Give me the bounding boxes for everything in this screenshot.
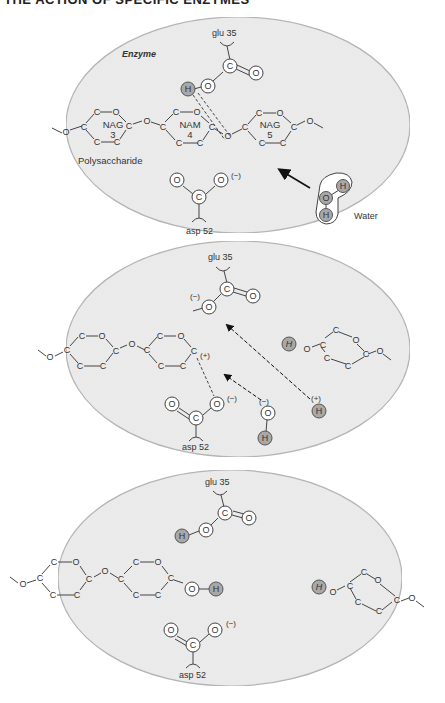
svg-text:O: O xyxy=(173,175,180,185)
svg-text:O: O xyxy=(177,331,184,341)
svg-text:C: C xyxy=(259,138,266,148)
svg-text:C: C xyxy=(133,590,140,600)
svg-text:O: O xyxy=(188,584,195,594)
svg-text:C: C xyxy=(64,345,71,355)
svg-text:C: C xyxy=(157,331,164,341)
sugar-number: 4 xyxy=(187,129,192,140)
svg-text:O: O xyxy=(252,68,259,78)
carbon-atom: C xyxy=(223,59,237,73)
svg-text:O: O xyxy=(376,346,383,356)
svg-text:C: C xyxy=(320,340,327,350)
sugar-number: 3 xyxy=(110,129,115,140)
enzyme-label: Enzyme xyxy=(122,49,156,59)
svg-text:O: O xyxy=(205,302,212,312)
asp52-label: asp 52 xyxy=(179,670,206,680)
charge-label: (−) xyxy=(190,292,200,301)
svg-text:C: C xyxy=(94,137,101,147)
svg-text:H: H xyxy=(316,582,323,592)
svg-text:C: C xyxy=(94,107,101,117)
svg-text:H: H xyxy=(179,531,186,541)
svg-text:C: C xyxy=(37,573,44,583)
svg-text:O: O xyxy=(249,291,256,301)
svg-text:O: O xyxy=(62,127,69,137)
svg-text:O: O xyxy=(408,593,415,603)
svg-text:C: C xyxy=(81,122,88,132)
svg-text:O: O xyxy=(245,513,252,523)
panel-3: glu 35 C O O H xyxy=(10,470,424,686)
svg-text:O: O xyxy=(211,625,218,635)
water-label: Water xyxy=(354,211,378,221)
svg-text:C: C xyxy=(155,590,162,600)
svg-text:O: O xyxy=(329,587,336,597)
svg-text:C: C xyxy=(176,138,183,148)
svg-text:C: C xyxy=(363,349,370,359)
svg-text:C: C xyxy=(51,557,58,567)
svg-text:C: C xyxy=(168,573,175,583)
svg-text:O: O xyxy=(143,116,150,126)
svg-text:C: C xyxy=(242,122,249,132)
svg-text:C: C xyxy=(144,345,151,355)
lysozyme-mechanism-diagram: Enzyme glu 35 C O O H xyxy=(0,0,445,703)
svg-text:C: C xyxy=(191,346,198,356)
sugar-number: 5 xyxy=(267,129,272,140)
carbocation-charge: (+) xyxy=(200,351,210,360)
svg-text:C: C xyxy=(100,361,107,371)
panel-2: glu 35 C O O (−) O xyxy=(38,241,410,457)
svg-text:O: O xyxy=(264,408,271,418)
svg-text:C: C xyxy=(333,325,340,335)
svg-text:(+): (+) xyxy=(311,394,321,403)
svg-text:C: C xyxy=(86,574,93,584)
svg-text:C: C xyxy=(196,192,203,202)
svg-text:C: C xyxy=(126,121,133,131)
svg-text:C: C xyxy=(209,122,216,132)
svg-text:O: O xyxy=(276,108,283,118)
svg-text:H: H xyxy=(316,406,323,416)
svg-text:O: O xyxy=(322,193,329,203)
svg-text:C: C xyxy=(160,122,167,132)
svg-text:C: C xyxy=(197,138,204,148)
svg-text:O: O xyxy=(46,352,53,362)
svg-text:C: C xyxy=(190,640,197,650)
svg-text:O: O xyxy=(204,81,211,91)
svg-text:C: C xyxy=(173,107,180,117)
svg-text:C: C xyxy=(118,574,125,584)
svg-text:C: C xyxy=(280,138,287,148)
svg-text:O: O xyxy=(202,525,209,535)
svg-text:O: O xyxy=(374,575,381,585)
svg-text:C: C xyxy=(347,581,354,591)
svg-text:C: C xyxy=(227,61,234,71)
svg-text:C: C xyxy=(222,508,229,518)
svg-text:H: H xyxy=(213,584,220,594)
svg-text:C: C xyxy=(224,284,231,294)
svg-text:H: H xyxy=(262,433,269,443)
svg-text:H: H xyxy=(286,339,293,349)
svg-text:C: C xyxy=(77,361,84,371)
oxygen-atom: O xyxy=(201,79,215,93)
polysaccharide-label: Polysaccharide xyxy=(78,155,142,166)
svg-text:H: H xyxy=(340,181,347,191)
charge-label: (−) xyxy=(226,619,236,628)
svg-text:C: C xyxy=(79,331,86,341)
svg-text:H: H xyxy=(323,210,330,220)
svg-text:C: C xyxy=(113,346,120,356)
svg-text:O: O xyxy=(167,625,174,635)
svg-text:O: O xyxy=(217,175,224,185)
oxygen-atom: O xyxy=(249,66,263,80)
svg-text:C: C xyxy=(394,595,401,605)
svg-text:C: C xyxy=(345,361,352,371)
enzyme-body xyxy=(58,470,402,686)
svg-text:C: C xyxy=(180,361,187,371)
svg-text:C: C xyxy=(376,606,383,616)
svg-text:(−): (−) xyxy=(259,397,269,406)
svg-text:C: C xyxy=(193,413,200,423)
svg-text:O: O xyxy=(154,557,161,567)
svg-text:O: O xyxy=(19,579,26,589)
svg-text:O: O xyxy=(168,399,175,409)
svg-text:C: C xyxy=(361,567,368,577)
svg-text:O: O xyxy=(193,107,200,117)
svg-text:C: C xyxy=(324,353,331,363)
svg-text:C: C xyxy=(355,597,362,607)
svg-text:C: C xyxy=(133,557,140,567)
asp52-label: asp 52 xyxy=(182,442,209,452)
svg-text:C: C xyxy=(158,361,165,371)
